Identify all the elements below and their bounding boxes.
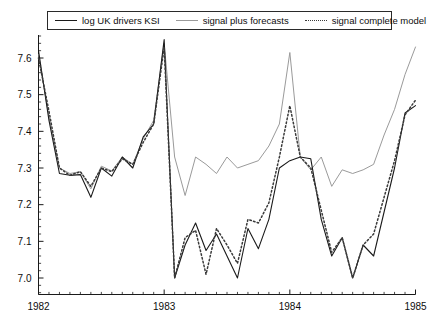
x-tick-label: 1982 bbox=[27, 301, 50, 312]
y-tick-label: 7.4 bbox=[18, 126, 32, 137]
y-tick-label: 7.5 bbox=[18, 89, 32, 100]
x-tick-label: 1984 bbox=[279, 301, 302, 312]
series-line-0 bbox=[39, 40, 416, 278]
chart-container: log UK drivers KSI signal plus forecasts… bbox=[0, 0, 438, 329]
tick-labels: 7.07.17.27.37.47.57.61982198319841985 bbox=[18, 53, 427, 312]
y-tick-label: 7.2 bbox=[18, 199, 32, 210]
series-line-1 bbox=[39, 43, 416, 195]
y-tick-label: 7.3 bbox=[18, 163, 32, 174]
y-tick-label: 7.1 bbox=[18, 236, 32, 247]
x-tick-label: 1983 bbox=[153, 301, 176, 312]
y-tick-label: 7.6 bbox=[18, 53, 32, 64]
y-tick-label: 7.0 bbox=[18, 273, 32, 284]
x-tick-label: 1985 bbox=[404, 301, 427, 312]
series-line-2 bbox=[39, 47, 416, 278]
data-series bbox=[39, 40, 416, 278]
plot-area: 7.07.17.27.37.47.57.61982198319841985 bbox=[0, 0, 438, 329]
